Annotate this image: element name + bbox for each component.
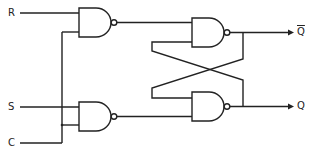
nand-gate-1 xyxy=(79,8,117,37)
nand-gate-2 xyxy=(79,102,117,131)
junction-dot xyxy=(61,124,64,127)
label-s: S xyxy=(8,102,14,112)
arrow-qbar-icon xyxy=(288,30,294,36)
nand-gate-4 xyxy=(192,92,230,121)
label-q: Q xyxy=(297,101,305,111)
nand-gate-3 xyxy=(192,18,230,47)
circuit-diagram xyxy=(0,0,311,159)
label-c: C xyxy=(8,138,15,148)
label-qbar: Q xyxy=(297,27,305,37)
arrow-q-icon xyxy=(288,104,294,110)
label-r: R xyxy=(8,8,15,18)
